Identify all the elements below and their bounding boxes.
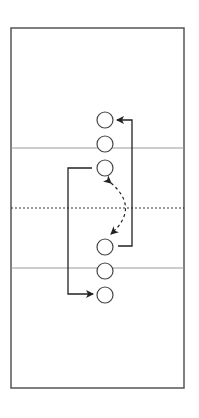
right-run-path-arrow-icon [117, 120, 132, 246]
player-circle [97, 287, 113, 303]
player-circle [97, 112, 113, 128]
drill-diagram [0, 0, 199, 418]
player-circle [97, 239, 113, 255]
left-run-path-arrow-icon [68, 168, 93, 294]
player-circle [97, 263, 113, 279]
player-circle [97, 160, 113, 176]
player-circle [97, 136, 113, 152]
